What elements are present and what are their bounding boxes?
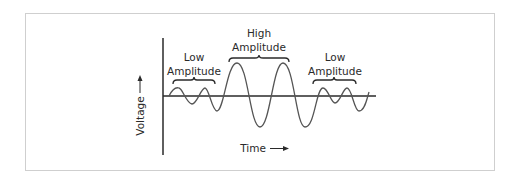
label-low-right-line2: Amplitude [308,65,362,77]
label-high-line2: Amplitude [232,41,286,53]
bracket-low-right [313,77,356,84]
y-axis-label: Voltage [134,96,146,135]
amplitude-diagram: Low Amplitude High Amplitude Low Amplitu… [0,0,515,180]
label-low-left-line2: Amplitude [167,65,221,77]
x-axis-label: Time [239,142,266,154]
label-low-right-line1: Low [325,51,346,63]
label-low-left-line1: Low [184,51,205,63]
bracket-low-left [173,77,215,84]
bracket-high-middle [229,55,289,62]
x-axis-arrow-icon [283,146,289,151]
y-axis-arrow-icon [138,75,143,81]
label-high-line1: High [247,27,271,39]
